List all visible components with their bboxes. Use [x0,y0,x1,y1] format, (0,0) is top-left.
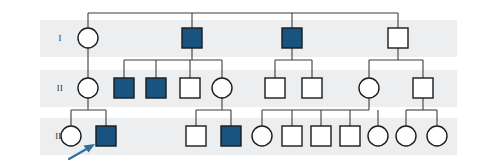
individual-III-3-male-unaffected[interactable] [186,126,206,146]
individual-II-8-female-unaffected[interactable] [359,78,379,98]
individual-I-4-male-unaffected[interactable] [388,28,408,48]
individual-III-1-female-unaffected[interactable] [61,126,81,146]
individual-I-2-male-affected[interactable] [182,28,202,48]
individual-III-8-male-unaffected[interactable] [340,126,360,146]
individual-II-9-male-unaffected[interactable] [413,78,433,98]
generation-band-II [40,70,457,107]
individual-II-3-male-affected[interactable] [146,78,166,98]
individual-III-5-female-unaffected[interactable] [252,126,272,146]
generation-label-1: I [58,33,61,43]
individual-III-9-female-unaffected[interactable] [368,126,388,146]
individual-I-3-male-affected[interactable] [282,28,302,48]
individual-II-6-male-unaffected[interactable] [265,78,285,98]
individual-II-2-male-affected[interactable] [114,78,134,98]
individual-III-7-male-unaffected[interactable] [311,126,331,146]
individual-III-10-female-unaffected[interactable] [396,126,416,146]
generation-label-2: II [57,83,63,93]
individual-III-11-female-unaffected[interactable] [427,126,447,146]
individual-I-1-female-unaffected[interactable] [78,28,98,48]
individual-III-2-male-affected-proband[interactable] [96,126,116,146]
individual-II-7-male-unaffected[interactable] [302,78,322,98]
individual-III-6-male-unaffected[interactable] [282,126,302,146]
individual-III-4-male-affected[interactable] [221,126,241,146]
pedigree-chart-figure: I II III [0,0,483,165]
individual-II-1-female-unaffected[interactable] [78,78,98,98]
individual-II-4-male-unaffected[interactable] [180,78,200,98]
individual-II-5-female-unaffected[interactable] [212,78,232,98]
pedigree-diagram: I II III [0,0,483,165]
